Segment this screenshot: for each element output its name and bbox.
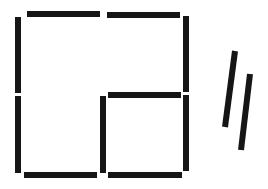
- match-top-left-h: [27, 11, 100, 17]
- match-top-right-h: [107, 12, 180, 18]
- match-bottom-right-h: [108, 172, 182, 178]
- match-middle-h: [108, 92, 181, 98]
- matchstick-puzzle-diagram: [0, 0, 268, 189]
- match-bottom-left-h: [24, 172, 97, 178]
- match-loose-2: [241, 74, 250, 150]
- match-inner-v: [100, 96, 106, 173]
- placed-matches-group: [15, 11, 189, 178]
- match-left-lower-v: [15, 96, 21, 173]
- match-loose-1: [225, 51, 235, 127]
- match-right-upper-v: [183, 16, 189, 92]
- match-left-upper-v: [15, 17, 21, 93]
- loose-matches-group: [225, 51, 250, 150]
- match-right-lower-v: [183, 95, 189, 171]
